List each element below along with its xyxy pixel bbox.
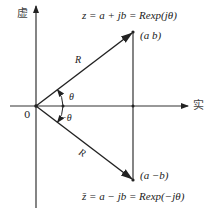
neg-theta-label: −θ: [60, 113, 72, 123]
diagram-lines: [0, 0, 209, 209]
z-magnitude-label: R: [75, 55, 81, 65]
origin-label: 0: [24, 110, 30, 120]
angle-theta-arc: [58, 90, 64, 106]
vector-z: [36, 33, 132, 106]
point-a-axis: [132, 105, 135, 108]
theta-label: θ: [69, 92, 74, 102]
point-a-neg-b-label: (a −b): [140, 170, 169, 181]
z-equation: z = a + jb = Rexp(jθ): [82, 10, 177, 21]
origin-point: [34, 104, 38, 108]
complex-plane-diagram: 虚 实 0 z = a + jb = Rexp(jθ) (a b) R θ −θ…: [0, 0, 209, 209]
vector-z-bar: [36, 106, 132, 179]
point-a-b-label: (a b): [140, 30, 161, 41]
point-a-neg-b: [131, 178, 134, 181]
arc-start-point: [62, 105, 65, 108]
point-a-b: [131, 30, 134, 33]
imag-axis-label: 虚: [17, 8, 28, 19]
real-axis-label: 实: [193, 100, 204, 111]
z-bar-equation: z̄ = a − jb = Rexp(−jθ): [82, 191, 184, 202]
